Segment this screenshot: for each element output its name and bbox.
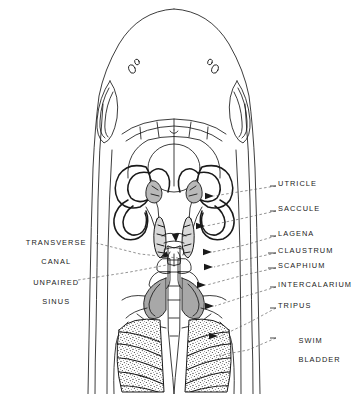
tripus-left <box>122 278 166 319</box>
label-intercalarium: INTERCALARIUM <box>278 280 352 290</box>
swim-bladder-right <box>184 319 240 394</box>
leader-saccule <box>206 211 276 226</box>
label-saccule: SACCULE <box>278 204 320 214</box>
strut-right <box>232 344 234 394</box>
label-unpaired-sinus-line2: SINUS <box>42 297 70 306</box>
nostril-right <box>207 58 220 74</box>
label-scaphium: SCAPHIUM <box>278 261 325 271</box>
label-transverse-canal-line1: TRANSVERSE <box>26 238 87 247</box>
label-ticks <box>268 186 276 338</box>
label-transverse-canal-line2: CANAL <box>41 257 71 266</box>
diagram-canvas: UTRICLE SACCULE LAGENA CLAUSTRUM SCAPHIU… <box>0 0 354 394</box>
label-utricle: UTRICLE <box>278 179 317 189</box>
label-swim-bladder-line2: BLADDER <box>298 355 340 364</box>
label-lagena: LAGENA <box>278 229 314 239</box>
otolith-right <box>186 181 202 203</box>
leader-claustrum <box>214 253 276 267</box>
otolith-left <box>146 181 162 203</box>
label-swim-bladder-line1: SWIM <box>298 336 322 345</box>
leader-intercalarium <box>215 287 276 306</box>
leader-tripus <box>219 308 276 337</box>
leader-utricle <box>214 186 276 196</box>
swim-bladder-left <box>108 319 164 394</box>
leader-scaphium <box>207 268 276 285</box>
label-claustrum: CLAUSTRUM <box>278 246 333 256</box>
strut-left <box>114 344 116 394</box>
tripus-right <box>182 278 226 319</box>
nostril-left <box>127 58 140 74</box>
label-swim-bladder: SWIM BLADDER <box>286 326 341 374</box>
skull-roof <box>122 119 226 192</box>
label-unpaired-sinus: UNPAIRED SINUS <box>14 268 86 316</box>
label-tripus: TRIPUS <box>278 301 311 311</box>
label-unpaired-sinus-line1: UNPAIRED <box>33 278 79 287</box>
